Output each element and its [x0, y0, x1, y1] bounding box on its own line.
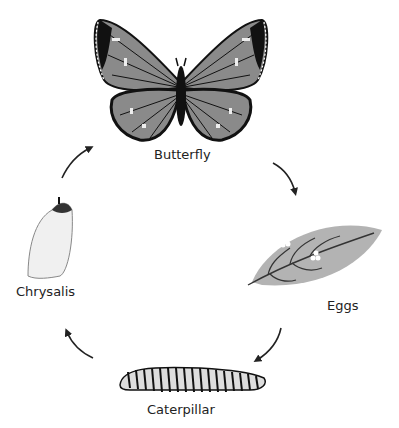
- arrow-eggs-to-caterpillar: [257, 328, 281, 360]
- arrow-chrysalis-to-butterfly: [62, 148, 90, 178]
- arrow-caterpillar-to-chrysalis: [67, 332, 93, 358]
- label-chrysalis: Chrysalis: [16, 284, 75, 299]
- label-butterfly: Butterfly: [154, 147, 211, 162]
- label-caterpillar: Caterpillar: [147, 402, 215, 417]
- chrysalis-icon: [28, 197, 72, 278]
- caterpillar-icon: [120, 367, 265, 392]
- arrows: [62, 148, 295, 360]
- arrow-butterfly-to-eggs: [273, 163, 295, 192]
- butterfly-icon: [95, 20, 267, 140]
- life-cycle-diagram: Butterfly Eggs Caterpillar Chrysalis: [0, 0, 399, 428]
- leaf-with-eggs-icon: [248, 226, 382, 286]
- label-eggs: Eggs: [327, 298, 359, 313]
